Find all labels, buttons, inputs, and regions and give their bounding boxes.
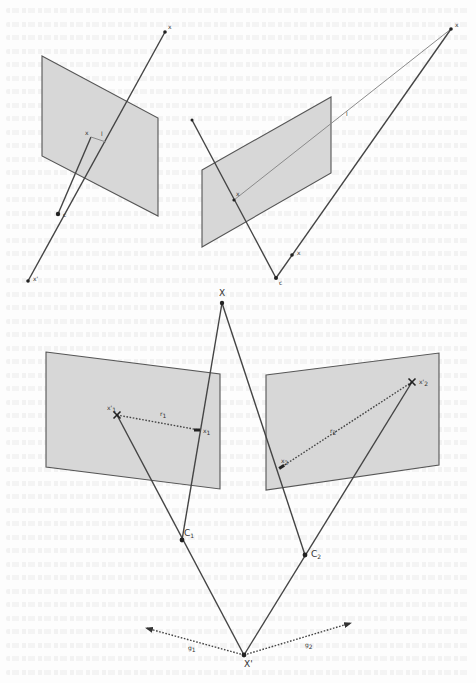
point-c: [274, 276, 278, 280]
ray-X-to-x-on-plane: [234, 29, 451, 200]
label-X-far: x: [455, 21, 459, 28]
label-C2: C2: [311, 549, 321, 560]
label-c: c: [279, 279, 282, 286]
scanned-page: x x l c x' x x l x c: [0, 0, 476, 683]
point-x1: [194, 429, 200, 432]
point-C1: [180, 538, 185, 543]
label-X-double-prime: X': [244, 659, 253, 669]
point-x-prime: [26, 279, 30, 283]
label-x-plane: x: [85, 129, 89, 136]
epipolar-geometry-figure: x x l c x' x x l x c: [0, 0, 476, 683]
label-X: X: [219, 288, 225, 298]
image-plane-top-left: [42, 56, 158, 216]
label-g1: g1: [188, 644, 196, 653]
label-x-on-plane: x: [236, 190, 240, 197]
label-C1: C1: [184, 528, 194, 539]
point-X-far: [449, 27, 453, 31]
point-X: [220, 301, 224, 305]
label-x-prime: x': [33, 275, 39, 282]
label-x-lower: x: [297, 249, 301, 256]
point-x-top: [163, 30, 167, 34]
image-plane-top-right: [202, 97, 331, 247]
label-g2: g2: [305, 641, 313, 650]
point-x-lower: [290, 253, 294, 257]
point-x-on-plane: [232, 198, 235, 201]
point-line-start: [191, 119, 194, 122]
point-X-double-prime: [242, 653, 247, 658]
panel-bottom: X x'1 x1 r1 x'2 x2 r2 C1 C2 X' g1 g2: [46, 288, 439, 669]
label-l: l: [346, 110, 348, 117]
panel-top-left: x x l c x': [26, 23, 172, 283]
point-C2: [303, 553, 308, 558]
panel-top-right: x x l x c: [191, 21, 460, 286]
point-c: [56, 212, 60, 216]
label-c: c: [63, 211, 66, 218]
label-x-top: x: [168, 23, 172, 30]
